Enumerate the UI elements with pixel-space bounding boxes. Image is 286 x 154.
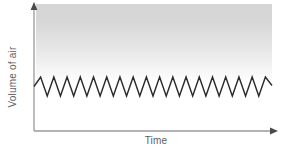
y-axis-label: Volume of air [6, 0, 20, 154]
breathing-waveform-line [0, 0, 286, 154]
waveform-polyline [34, 77, 272, 96]
spirogram-chart-figure: Volume of air Time [0, 0, 286, 154]
x-axis-label: Time [34, 134, 278, 148]
